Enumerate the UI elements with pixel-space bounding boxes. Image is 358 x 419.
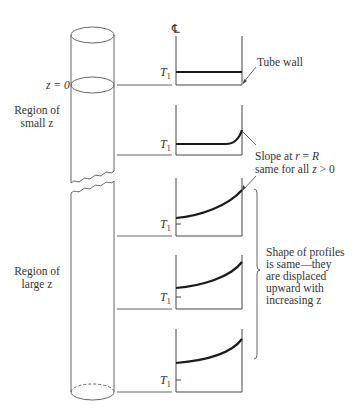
tube-break-lower [71, 181, 114, 193]
profile-curve [176, 190, 242, 218]
profiles-brace [254, 189, 260, 359]
t1-label: T1 [160, 373, 171, 389]
tube-temperature-profile-diagram: z = 0 Region of small z Region of large … [0, 0, 358, 419]
small-z-region-label-2: small z [21, 117, 54, 129]
large-z-region-label-1: Region of [14, 265, 60, 278]
profile-curve [176, 262, 242, 288]
shape-label-5: increasing z [266, 294, 321, 307]
small-z-region-label-1: Region of [14, 104, 60, 117]
tube-z0-ellipse [71, 77, 114, 93]
t1-label: T1 [160, 137, 171, 153]
profile-plot-large-z-2: T1 [160, 255, 242, 309]
profile-plot-large-z-3: T1 [160, 329, 242, 392]
profile-curve [176, 130, 242, 144]
tube-bottom-back-dashed [71, 384, 114, 392]
t1-label: T1 [160, 217, 171, 233]
centerline-symbol: ℄ [171, 23, 180, 35]
slope-label-1: Slope at r = R [255, 150, 319, 163]
slope-label-2: same for all z > 0 [255, 163, 335, 175]
t1-label: T1 [160, 65, 171, 81]
tube-wall-label: Tube wall [257, 56, 303, 68]
z0-label: z = 0 [45, 79, 70, 91]
slope-leader-upper [243, 132, 256, 145]
profile-curve [176, 339, 242, 363]
tube-top-ellipse [71, 27, 114, 43]
profile-plot-large-z-1: T1 [160, 178, 242, 236]
profile-plot-z0: T1 [160, 36, 242, 85]
t1-label: T1 [160, 290, 171, 306]
tube-break-upper [71, 171, 114, 183]
tube-wall-arrowhead [243, 79, 247, 84]
large-z-region-label-2: large z [22, 278, 53, 291]
tube-bottom-front [71, 392, 114, 400]
connector-lines [117, 85, 172, 392]
tube-cylinder [71, 27, 114, 400]
profile-plot-small-z: T1 [160, 105, 242, 155]
